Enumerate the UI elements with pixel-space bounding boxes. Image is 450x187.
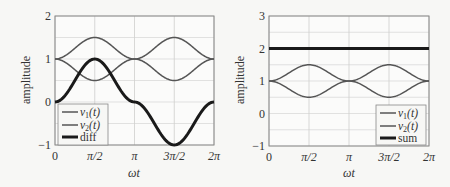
left-y-tick-labels: −1012 (38, 9, 51, 152)
left-x-axis-label: ωt (128, 166, 140, 180)
y-tick-label: 2 (45, 9, 51, 23)
right-y-tick-labels: −10123 (252, 9, 265, 153)
y-tick-label: 0 (45, 95, 51, 109)
x-tick-label: 0 (266, 150, 272, 164)
x-tick-label: 0 (52, 149, 58, 163)
left-y-axis-label: amplitude (19, 56, 33, 104)
x-tick-label: 3π/2 (163, 149, 185, 163)
x-tick-label: 3π/2 (377, 150, 399, 164)
x-tick-label: π (346, 150, 353, 164)
y-tick-label: 1 (259, 74, 265, 88)
y-tick-label: 2 (259, 42, 265, 56)
legend-label-diff: diff (80, 131, 97, 143)
right-legend: v1(t) v2(t) sum (376, 105, 426, 145)
y-tick-label: 3 (259, 9, 265, 23)
left-x-tick-labels: 0π/2π3π/22π (52, 149, 221, 163)
y-tick-label: −1 (38, 138, 51, 152)
right-y-axis-label: amplitude (233, 56, 247, 104)
legend-label-v1: v1(t) (80, 106, 100, 120)
right-chart: −10123 0π/2π3π/22π amplitude ωt v1(t) v2… (233, 9, 436, 180)
y-tick-label: 0 (259, 107, 265, 121)
x-tick-label: π/2 (301, 150, 316, 164)
figure: −1012 0π/2π3π/22π amplitude ωt v1(t) v2(… (0, 0, 450, 187)
legend-label-v1: v1(t) (398, 107, 418, 121)
left-chart: −1012 0π/2π3π/22π amplitude ωt v1(t) v2(… (19, 9, 221, 180)
x-tick-label: π/2 (87, 149, 102, 163)
legend-label-sum: sum (398, 132, 417, 144)
x-tick-label: 2π (208, 149, 221, 163)
x-tick-label: π (131, 149, 138, 163)
right-x-axis-label: ωt (343, 166, 355, 180)
y-tick-label: −1 (252, 139, 265, 153)
right-x-tick-labels: 0π/2π3π/22π (266, 150, 436, 164)
y-tick-label: 1 (45, 52, 51, 66)
x-tick-label: 2π (423, 150, 436, 164)
left-legend: v1(t) v2(t) diff (58, 104, 108, 145)
